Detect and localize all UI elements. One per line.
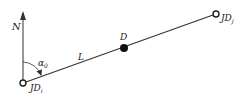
azimuth-label: α0 (38, 58, 48, 69)
midpoint-marker (120, 44, 128, 52)
route-diagram: N α0 L D JDi JDj (0, 0, 246, 99)
segment-length-label: L (77, 52, 84, 62)
north-label: N (11, 21, 22, 32)
start-point-label: JDi (28, 83, 43, 94)
midpoint-label: D (119, 32, 127, 42)
route-segment (26, 15, 213, 82)
end-point-marker (213, 11, 219, 17)
end-point-label: JDj (219, 13, 234, 25)
north-arrow-icon (20, 11, 26, 20)
start-point-marker (20, 80, 26, 86)
